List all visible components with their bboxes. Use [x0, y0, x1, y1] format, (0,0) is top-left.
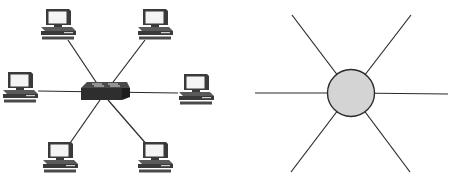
- abstract-star-topology: [255, 15, 448, 172]
- computer-icon-bottom-left: [43, 142, 78, 173]
- computer-icon-top-left: [41, 9, 76, 40]
- computer-icon-right: [179, 74, 214, 105]
- cable-bottom-left: [68, 100, 100, 146]
- computer-icon-left: [3, 72, 38, 103]
- cable-bottom-right: [108, 100, 148, 146]
- central-hub-node: [328, 70, 375, 117]
- computer-icon-bottom-right: [138, 142, 173, 173]
- network-switch-icon: [81, 82, 130, 100]
- switch-star-topology: [3, 9, 214, 173]
- star-topology-diagram: [0, 0, 452, 180]
- computer-icon-top-right: [138, 9, 173, 40]
